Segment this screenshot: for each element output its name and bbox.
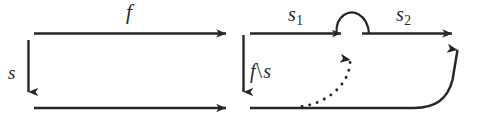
diagram-canvas: f s s1 s2 f\s: [0, 0, 489, 123]
edge-dashed-curve: [302, 60, 351, 107]
label-s1-base: s: [288, 3, 296, 25]
label-s: s: [8, 63, 15, 82]
label-f: f: [126, 2, 132, 23]
label-s2-subscript: 2: [404, 13, 411, 28]
label-f-backslash-s-numerator: f: [250, 60, 256, 82]
label-s1-subscript: 1: [296, 13, 303, 28]
label-s1: s1: [288, 4, 303, 28]
diagram-vector-layer: [0, 0, 489, 123]
edge-loop-arc: [336, 13, 369, 34]
label-f-backslash-s-denominator: s: [263, 60, 271, 82]
label-f-backslash-s: f\s: [250, 61, 271, 81]
label-s2: s2: [396, 4, 411, 28]
backslash-operator: \: [256, 60, 264, 82]
label-s2-base: s: [396, 3, 404, 25]
edge-bottom-right: [250, 50, 458, 108]
